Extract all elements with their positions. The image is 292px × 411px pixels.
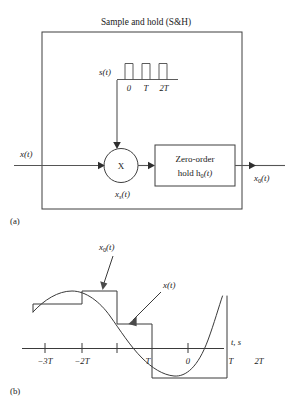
sampled-signal-arrow <box>138 162 155 169</box>
block-diagram-title: Sample and hold (S&H) <box>101 17 191 28</box>
pulse-rect-3 <box>159 64 167 80</box>
held-signal-callout-line <box>104 256 113 283</box>
held-signal-callout-label: x0(t) <box>98 242 115 253</box>
sampled-signal-label: xs(t) <box>114 189 130 200</box>
sampling-signal-arrow <box>113 80 121 149</box>
held-signal-callout-arrowhead <box>100 281 107 290</box>
pulse-tick-label-0: 0 <box>127 83 132 93</box>
pulse-tick-label-T: T <box>144 83 150 93</box>
held-signal-callout-tail: (t) <box>106 242 115 252</box>
continuous-signal-callout-label: x(t) <box>162 280 176 290</box>
sampled-signal-label-tail: (t) <box>121 189 130 199</box>
zoh-label-line-2-prefix: hold h <box>178 168 201 178</box>
sampling-signal-label: s(t) <box>99 67 111 77</box>
zoh-label-line-1: Zero-order <box>176 154 215 164</box>
pulse-train-graphic: 0 T 2T <box>117 64 178 94</box>
held-signal-staircase <box>33 291 227 378</box>
input-signal-label: x(t) <box>19 149 33 159</box>
held-signal-callout: x0(t) <box>98 242 115 290</box>
tick-label--3T: −3T <box>38 356 54 366</box>
tick-label-2T: 2T <box>254 356 264 366</box>
figure-root: Sample and hold (S&H) 0 T 2T s(t) <box>0 0 292 411</box>
pulse-rect-1 <box>125 64 133 80</box>
output-signal-label: x0(t) <box>253 173 270 184</box>
sample-and-hold-figure: Sample and hold (S&H) 0 T 2T s(t) <box>0 0 292 411</box>
zero-order-hold-block: Zero-order hold h0(t) <box>155 145 235 186</box>
sample-and-hold-boundary-box <box>42 32 242 209</box>
multiplier-symbol: X <box>118 161 125 171</box>
panel-a-block-diagram: Sample and hold (S&H) 0 T 2T s(t) <box>10 17 285 226</box>
tick-label-T: T <box>229 356 235 366</box>
tick-label-0: 0 <box>186 356 191 366</box>
continuous-signal-callout-line <box>133 292 161 320</box>
zoh-label-line-2-suffix: (t) <box>204 168 213 178</box>
output-signal-label-tail: (t) <box>261 173 270 183</box>
input-signal-arrow <box>14 162 105 169</box>
panel-label-a: (a) <box>10 216 20 226</box>
pulse-tick-label-2T: 2T <box>159 83 169 93</box>
tick-label--2T: −2T <box>75 356 91 366</box>
panel-label-b: (b) <box>10 386 20 396</box>
svg-text:xs(t): xs(t) <box>114 189 130 200</box>
continuous-signal-callout-arrowhead <box>128 317 136 327</box>
panel-b-waveform-plot: −3T −2T T 0 T 2T t, s x0(t) x(t) <box>10 242 265 396</box>
continuous-signal-callout: x(t) <box>128 280 175 326</box>
svg-text:hold h0(t): hold h0(t) <box>178 168 212 179</box>
multiplier-node: X <box>104 149 138 183</box>
time-axis-label: t, s <box>231 337 242 347</box>
pulse-rect-2 <box>142 64 150 80</box>
